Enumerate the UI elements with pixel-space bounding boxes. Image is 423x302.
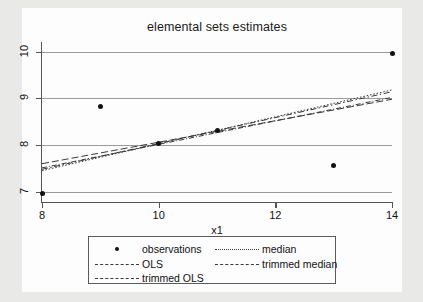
observation-point xyxy=(98,104,103,109)
legend-key-line-dotted xyxy=(215,243,259,255)
legend-label-trimmed-median: trimmed median xyxy=(262,258,337,270)
y-tick-label: 10 xyxy=(18,41,30,61)
y-tick-mark xyxy=(36,52,42,53)
legend-box: observations median OLS trimmed median t… xyxy=(88,236,336,284)
x-tick-label: 10 xyxy=(147,209,171,221)
legend-entry-median: median xyxy=(215,242,296,256)
y-tick-label: 8 xyxy=(18,134,30,154)
y-tick-mark xyxy=(36,98,42,99)
y-tick-mark xyxy=(36,145,42,146)
x-axis-title: x1 xyxy=(42,224,392,236)
legend-label-median: median xyxy=(262,243,296,255)
x-tick-mark xyxy=(42,203,43,208)
legend-entry-trimmed-ols: trimmed OLS xyxy=(95,271,204,285)
legend-entry-ols: OLS xyxy=(95,257,163,271)
x-tick-mark xyxy=(275,203,276,208)
gridline-y xyxy=(42,192,392,193)
y-axis-line xyxy=(41,42,42,203)
legend-label-ols: OLS xyxy=(142,258,163,270)
x-tick-label: 14 xyxy=(380,209,404,221)
legend-key-line-dashed xyxy=(95,258,139,270)
x-tick-label: 8 xyxy=(30,209,54,221)
legend-key-marker-dot xyxy=(95,243,139,255)
gridline-y xyxy=(42,98,392,99)
legend-entry-trimmed-median: trimmed median xyxy=(215,257,337,271)
legend-entry-observations: observations xyxy=(95,242,202,256)
legend-label-trimmed-ols: trimmed OLS xyxy=(142,272,204,284)
legend-label-observations: observations xyxy=(142,243,202,255)
y-tick-label: 9 xyxy=(18,87,30,107)
y-tick-label: 7 xyxy=(18,181,30,201)
x-tick-label: 12 xyxy=(263,209,287,221)
legend-key-line-dashdot-2 xyxy=(95,272,139,284)
gridline-y xyxy=(42,145,392,146)
x-tick-mark xyxy=(392,203,393,208)
figure-container: elemental sets estimates 789108101214 x1… xyxy=(0,0,423,302)
gridline-y xyxy=(42,52,392,53)
legend-key-line-dashdot xyxy=(215,258,259,270)
observation-point xyxy=(40,191,45,196)
x-tick-mark xyxy=(159,203,160,208)
x-axis-line xyxy=(41,202,393,203)
chart-title: elemental sets estimates xyxy=(42,20,392,34)
observation-point xyxy=(215,128,220,133)
